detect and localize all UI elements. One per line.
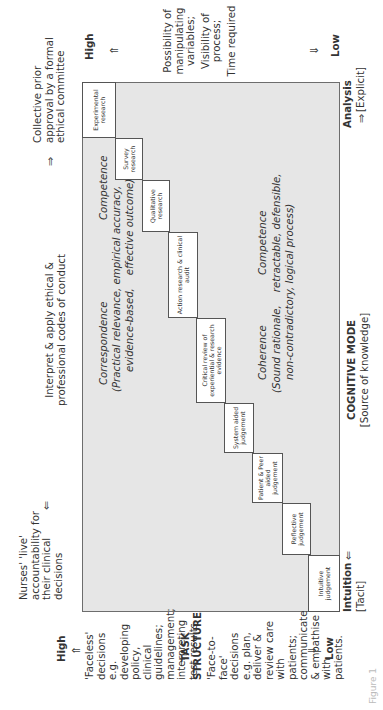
coherence-competence: Competence <box>257 210 269 275</box>
explicit-label: [Explicit] <box>355 67 367 112</box>
step-intuitive-judgement: Intuitive judgement <box>308 555 340 612</box>
time-required-text: Time required <box>226 0 238 82</box>
analysis-arrow-icon: ⇒ <box>355 114 368 123</box>
source-of-knowledge-label: [Source of knowledge] <box>359 290 371 450</box>
intuition-label: Intuition <box>342 563 354 612</box>
coherence-criteria-line2: non-contradictory, logical process) <box>284 204 296 380</box>
correspondence-title: Correspondence <box>98 301 110 385</box>
visibility-text: Visibility of process; <box>200 0 223 82</box>
ethical-committee-label: Collective prior approval by a formal et… <box>32 33 67 143</box>
step-critical-review: Critical review of experiential & resear… <box>196 318 226 403</box>
task-title-line1: TASK <box>180 614 192 680</box>
correspondence-criteria-line2: evidence-based, effective outcome) <box>124 179 136 372</box>
step-system-aided-judgement: System aided judgement <box>224 403 254 453</box>
left-down-arrow-icon: ⇓ <box>306 646 319 655</box>
step-experimental-research: Experimental research <box>82 82 116 138</box>
coherence-title: Coherence <box>257 325 269 380</box>
step-qualitative-research: Qualitative research <box>142 180 170 232</box>
correspondence-competence: Competence <box>98 155 110 220</box>
coherence-criteria-line1: (Sound rationale, retractable, defensibl… <box>271 173 283 393</box>
right-arrow-icon: ⇒ <box>44 157 57 166</box>
left-up-arrow-icon: ⇑ <box>70 646 83 655</box>
step-action-research: Action research & clinical audit <box>168 232 198 318</box>
intuition-arrow-icon: ⇐ <box>342 551 355 560</box>
ethical-codes-label: Interpret & apply ethical & professional… <box>44 230 67 430</box>
down-arrow-icon: ⇓ <box>308 46 321 55</box>
cognitive-continuum-diagram: Nurses' 'live' accountability for their … <box>0 0 383 710</box>
left-low-label: Low <box>324 637 336 660</box>
step-reflective-judgement: Reflective judgement <box>282 503 311 555</box>
right-low-label: Low <box>330 34 342 57</box>
left-high-label: High <box>56 635 68 662</box>
task-title-line2: STRUCTURE <box>192 614 204 680</box>
figure-caption: Figure 1 <box>368 668 378 704</box>
correspondence-criteria-line1: (Practical relevance, empirical accuracy… <box>111 186 123 392</box>
cognitive-mode-title: COGNITIVE MODE <box>346 290 358 450</box>
possibility-text: Possibility of manipulating variables; <box>162 0 197 82</box>
right-high-label: High <box>84 33 96 60</box>
tacit-label: [Tacit] <box>355 581 367 612</box>
manipulation-label: Possibility of manipulating variables; V… <box>162 0 237 82</box>
up-arrow-icon: ⇑ <box>108 46 121 55</box>
task-structure-title: TASK STRUCTURE <box>180 614 203 680</box>
step-survey-research: Survey research <box>115 138 143 180</box>
analysis-label: Analysis <box>342 80 354 128</box>
step-patient-peer-judgement: Patient & Peer aided judgement <box>252 453 283 503</box>
left-arrow-icon: ⇐ <box>40 501 53 510</box>
